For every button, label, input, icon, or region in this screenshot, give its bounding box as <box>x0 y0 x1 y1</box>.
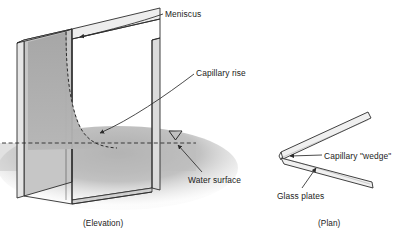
caption-plan: (Plan) <box>318 220 340 228</box>
plan-plate-lower <box>281 158 373 188</box>
label-meniscus: Meniscus <box>165 10 201 18</box>
leader-capillary-wedge <box>290 155 322 156</box>
label-capillary-wedge: Capillary "wedge" <box>324 152 391 160</box>
leader-capillary-rise <box>100 74 194 133</box>
plan-view <box>279 112 373 188</box>
caption-elevation: (Elevation) <box>83 220 123 228</box>
label-glass-plates: Glass plates <box>277 192 324 200</box>
label-water-surface: Water surface <box>188 176 241 184</box>
capillary-rise-figure: Meniscus Capillary rise Water surface Ca… <box>0 0 406 242</box>
label-capillary-rise: Capillary rise <box>196 69 246 77</box>
figure-drawing <box>0 0 406 242</box>
